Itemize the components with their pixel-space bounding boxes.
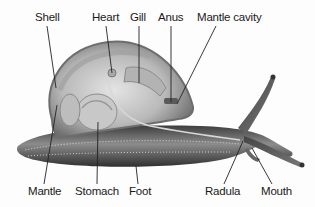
label-foot: Foot (129, 186, 151, 198)
label-mouth: Mouth (261, 186, 292, 198)
shell (49, 41, 240, 140)
label-shell: Shell (35, 12, 60, 24)
label-anus: Anus (158, 12, 183, 24)
snail-anatomy-diagram: Shell Heart Gill Anus Mantle cavity Mant… (0, 0, 315, 207)
leader-line-shell (47, 26, 56, 88)
label-mantle-cavity: Mantle cavity (197, 12, 262, 24)
mantle-organ (60, 94, 80, 126)
label-mantle: Mantle (28, 186, 61, 198)
label-gill: Gill (130, 12, 146, 24)
leader-line-foot (136, 166, 138, 184)
lower-tentacle (245, 148, 260, 162)
label-stomach: Stomach (75, 186, 119, 198)
stomach-organ (77, 94, 117, 130)
label-heart: Heart (92, 12, 119, 24)
label-radula: Radula (205, 186, 240, 198)
leader-line-mantle-cavity (177, 26, 216, 104)
snail-illustration (0, 0, 315, 207)
